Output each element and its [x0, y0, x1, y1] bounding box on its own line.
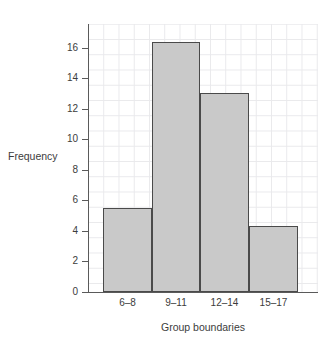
- x-tick-label-3: 15–17: [249, 297, 298, 308]
- x-tick-label-2: 12–14: [200, 297, 249, 308]
- y-tick-label-10: 10: [38, 134, 78, 144]
- y-tick-label-4: 4: [38, 226, 78, 236]
- x-axis-line: [88, 292, 318, 293]
- y-tick-8: [82, 170, 89, 171]
- bar-0: [103, 208, 152, 292]
- bars-layer: [88, 24, 318, 292]
- histogram-figure: 0 2 4 6 8 10 12 14 16 6–8 9–11 12–14 15–…: [0, 0, 331, 342]
- y-tick-label-14: 14: [38, 73, 78, 83]
- y-tick-label-2: 2: [38, 256, 78, 266]
- y-tick-6: [82, 200, 89, 201]
- y-tick-label-8: 8: [38, 165, 78, 175]
- y-tick-0: [82, 292, 89, 293]
- y-tick-10: [82, 139, 89, 140]
- y-tick-label-0: 0: [38, 287, 78, 297]
- x-tick-label-1: 9–11: [152, 297, 200, 308]
- y-tick-12: [82, 109, 89, 110]
- y-tick-16: [82, 48, 89, 49]
- y-axis-title: Frequency: [8, 151, 58, 162]
- y-tick-4: [82, 231, 89, 232]
- bar-3: [249, 226, 298, 292]
- x-axis-title: Group boundaries: [88, 322, 318, 333]
- y-tick-label-6: 6: [38, 195, 78, 205]
- y-tick-label-16: 16: [38, 43, 78, 53]
- y-tick-14: [82, 78, 89, 79]
- x-tick-label-0: 6–8: [103, 297, 152, 308]
- bar-2: [200, 93, 249, 292]
- y-tick-label-12: 12: [38, 104, 78, 114]
- y-tick-2: [82, 261, 89, 262]
- bar-1: [152, 42, 200, 292]
- y-axis-line: [88, 24, 89, 293]
